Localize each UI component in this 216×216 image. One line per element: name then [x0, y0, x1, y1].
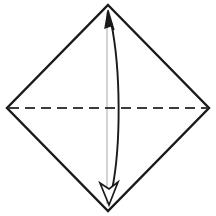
origami-fold-diagram: [0, 0, 216, 216]
diagram-canvas: [0, 0, 216, 216]
